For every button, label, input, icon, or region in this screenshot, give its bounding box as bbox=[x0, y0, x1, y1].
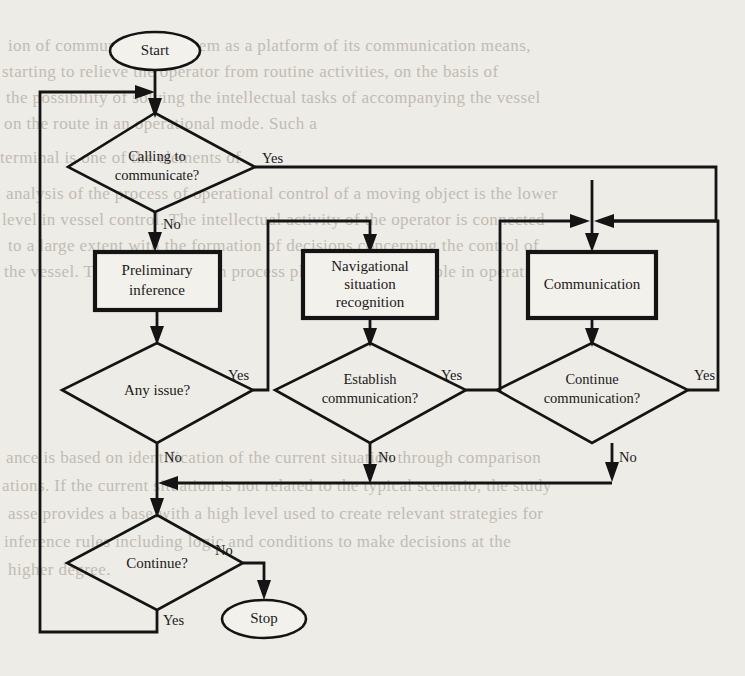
establish-label-line2: communication? bbox=[322, 390, 419, 406]
label-establish-yes: Yes bbox=[441, 367, 462, 383]
arrowhead-continuecomm-no bbox=[605, 462, 619, 482]
arrowhead-establish-yes bbox=[570, 214, 590, 228]
continue-comm-label-line1: Continue bbox=[565, 371, 618, 387]
node-continue-communication[interactable]: Continue communication? bbox=[497, 343, 688, 443]
navigational-label-line3: recognition bbox=[336, 294, 405, 310]
label-any-issue-no: No bbox=[164, 449, 182, 465]
node-stop[interactable]: Stop bbox=[222, 600, 306, 638]
continue-comm-label-line2: communication? bbox=[544, 390, 641, 406]
navigational-label-line1: Navigational bbox=[331, 258, 408, 274]
stop-label: Stop bbox=[250, 610, 278, 626]
node-any-issue[interactable]: Any issue? bbox=[62, 343, 253, 443]
flowchart-canvas: Preliminary inference --> right, down, i… bbox=[0, 0, 745, 676]
calling-label-line1: Calling to bbox=[128, 148, 186, 164]
arrowhead-merge-bar bbox=[158, 476, 178, 490]
label-any-issue-yes: Yes bbox=[228, 367, 249, 383]
navigational-label-line2: situation bbox=[344, 276, 396, 292]
establish-label-line1: Establish bbox=[343, 371, 397, 387]
label-continue-no: No bbox=[215, 542, 233, 558]
calling-label-line2: communicate? bbox=[115, 167, 200, 183]
node-calling-to-communicate[interactable]: Calling to communicate? bbox=[68, 113, 255, 212]
node-continue[interactable]: Continue? bbox=[67, 515, 243, 610]
label-calling-no: No bbox=[163, 216, 181, 232]
any-issue-label: Any issue? bbox=[124, 382, 191, 398]
label-continue-comm-yes: Yes bbox=[694, 367, 715, 383]
node-preliminary-inference[interactable]: Preliminary inference bbox=[95, 252, 220, 310]
label-calling-yes: Yes bbox=[262, 150, 283, 166]
continue-label: Continue? bbox=[126, 555, 188, 571]
communication-label: Communication bbox=[544, 276, 641, 292]
node-establish-communication[interactable]: Establish communication? bbox=[275, 343, 466, 443]
node-navigational-situation-recognition[interactable]: Navigational situation recognition bbox=[303, 251, 437, 318]
node-start[interactable]: Start bbox=[110, 32, 200, 70]
arrowhead-establish-no bbox=[363, 464, 377, 484]
start-label: Start bbox=[141, 42, 170, 58]
label-continue-comm-no: No bbox=[619, 449, 637, 465]
preliminary-label-line2: inference bbox=[129, 282, 185, 298]
edge-calling-yes-to-communication bbox=[255, 167, 716, 221]
arrowhead-continue-yes-loop bbox=[135, 85, 155, 99]
preliminary-box bbox=[95, 252, 220, 310]
arrowhead-to-communication bbox=[585, 233, 599, 252]
arrowhead-continue-no-to-stop bbox=[257, 580, 271, 600]
label-establish-no: No bbox=[378, 449, 396, 465]
node-communication[interactable]: Communication bbox=[528, 252, 656, 318]
preliminary-label-line1: Preliminary bbox=[122, 262, 193, 278]
arrowhead-calling-no bbox=[148, 232, 162, 252]
label-continue-yes: Yes bbox=[163, 612, 184, 628]
